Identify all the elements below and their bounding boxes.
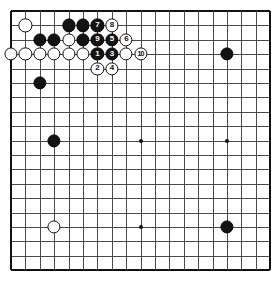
stone-white-c5-r3[interactable] — [62, 33, 75, 46]
stone-move-number: 10 — [138, 51, 144, 58]
stone-black-move-7[interactable]: 7 — [91, 19, 104, 32]
grid-line-vertical-12 — [169, 11, 170, 270]
stone-white-c2-r2[interactable] — [19, 19, 32, 32]
grid-line-vertical-19 — [269, 11, 271, 270]
stone-white-c3-r4[interactable] — [33, 48, 46, 61]
stone-move-number: 9 — [95, 36, 99, 44]
stone-white-c1-r4[interactable] — [4, 48, 17, 61]
grid-line-vertical-17 — [241, 11, 242, 270]
stone-move-number: 3 — [110, 50, 114, 58]
stone-move-number: 6 — [124, 36, 128, 44]
goban-grid[interactable]: 78956131024 — [0, 0, 280, 285]
stone-move-number: 8 — [110, 21, 114, 29]
stone-black-c4-r10[interactable] — [48, 134, 61, 147]
star-point-6 — [225, 139, 229, 143]
stone-black-c16-r4[interactable] — [220, 48, 233, 61]
stone-black-move-9[interactable]: 9 — [91, 33, 104, 46]
stone-black-c3-r3[interactable] — [33, 33, 46, 46]
star-point-5 — [139, 139, 143, 143]
stone-move-number: 5 — [110, 36, 114, 44]
stone-black-c4-r3[interactable] — [48, 33, 61, 46]
grid-line-vertical-13 — [184, 11, 185, 270]
stone-white-c6-r4[interactable] — [76, 48, 89, 61]
stone-black-c5-r2[interactable] — [62, 19, 75, 32]
star-point-8 — [139, 225, 143, 229]
stone-move-number: 7 — [95, 21, 99, 29]
stone-move-number: 1 — [95, 50, 99, 58]
grid-line-vertical-11 — [155, 11, 156, 270]
stone-white-c9-r4[interactable] — [120, 48, 133, 61]
stone-white-c5-r4[interactable] — [62, 48, 75, 61]
stone-white-move-6[interactable]: 6 — [120, 33, 133, 46]
stone-move-number: 4 — [110, 65, 114, 73]
stone-black-move-5[interactable]: 5 — [105, 33, 118, 46]
stone-white-c4-r4[interactable] — [48, 48, 61, 61]
stone-black-c3-r6[interactable] — [33, 76, 46, 89]
stone-white-move-4[interactable]: 4 — [105, 62, 118, 75]
stone-white-c4-r16[interactable] — [48, 220, 61, 233]
stone-black-move-3[interactable]: 3 — [105, 48, 118, 61]
stone-white-move-8[interactable]: 8 — [105, 19, 118, 32]
grid-line-vertical-15 — [213, 11, 214, 270]
stone-black-c6-r2[interactable] — [76, 19, 89, 32]
stone-white-move-10[interactable]: 10 — [134, 48, 147, 61]
stone-black-move-1[interactable]: 1 — [91, 48, 104, 61]
go-board-diagram: 78956131024 — [0, 0, 280, 285]
stone-white-move-2[interactable]: 2 — [91, 62, 104, 75]
stone-black-c16-r16[interactable] — [220, 220, 233, 233]
stone-black-c6-r3[interactable] — [76, 33, 89, 46]
grid-line-vertical-14 — [198, 11, 199, 270]
stone-move-number: 2 — [95, 65, 99, 73]
stone-white-c2-r4[interactable] — [19, 48, 32, 61]
grid-line-vertical-18 — [256, 11, 257, 270]
